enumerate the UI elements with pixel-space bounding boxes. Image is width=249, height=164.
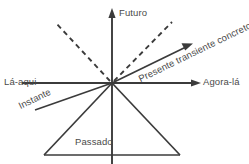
axis-label-agora-la: Agora-lá [203, 77, 240, 87]
futuro-arrow-icon [108, 8, 115, 18]
triangle-right-edge [112, 83, 180, 155]
region-label-passado: Passado [75, 137, 113, 147]
dashed-line-left [55, 22, 110, 81]
axis-label-futuro: Futuro [119, 8, 147, 18]
axis-label-la-aqui: Lá-aqui [4, 77, 36, 87]
agora-la-arrow-icon [191, 79, 201, 86]
time-space-diagram: Futuro Agora-lá Lá-aqui Passado Instante… [0, 0, 249, 164]
